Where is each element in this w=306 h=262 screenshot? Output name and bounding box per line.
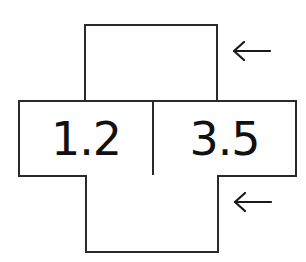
cell-right-value: 3.5 bbox=[154, 102, 295, 175]
cell-left-value: 1.2 bbox=[20, 102, 152, 175]
bottom-left-arrow-icon bbox=[233, 192, 273, 212]
bottom-blank-box bbox=[85, 175, 219, 253]
top-blank-box bbox=[84, 24, 218, 103]
middle-row: 1.2 3.5 bbox=[18, 100, 297, 177]
top-left-arrow-icon bbox=[232, 41, 272, 61]
